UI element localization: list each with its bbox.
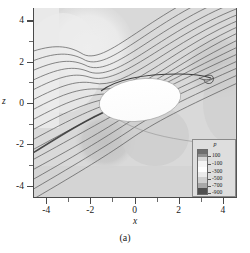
x-tick-minor-3 (201, 198, 202, 202)
colorbar-label-neg500: -500 (212, 176, 222, 182)
x-tick-minor-neg3 (68, 198, 69, 202)
y-tick-4 (27, 20, 33, 21)
x-tick-2 (179, 198, 180, 204)
y-tick-minor-neg3 (29, 165, 33, 166)
y-tick-0 (27, 103, 33, 104)
colorbar-label-100: 100 (212, 153, 220, 159)
colorbar-title: p (193, 141, 237, 147)
colorbar-tick-neg100 (208, 164, 211, 165)
colorbar-inner: 100 -100 -300 -500 -700 -900 (197, 149, 233, 195)
x-tick-minor-1 (157, 198, 158, 202)
y-axis-label: z (2, 96, 6, 106)
y-tick-neg4 (27, 186, 33, 187)
colorbar-gradient (197, 149, 208, 195)
y-tick-minor-1 (29, 82, 33, 83)
x-tick-4 (223, 198, 224, 204)
pressure-region-left-edge (33, 8, 59, 128)
figure-panel: 4 2 0 -2 -4 -4 -2 0 2 4 x z p 100 -100 -… (0, 0, 250, 253)
y-tick-minor-3 (29, 41, 33, 42)
x-tick-0 (135, 198, 136, 204)
x-ticklabel-4: 4 (211, 206, 235, 216)
x-ticklabel-neg4: -4 (34, 206, 58, 216)
x-ticklabel-2: 2 (167, 206, 191, 216)
colorbar-legend: p 100 -100 -300 -500 -700 -900 (192, 139, 236, 197)
x-ticklabel-neg2: -2 (78, 206, 102, 216)
y-tick-2 (27, 62, 33, 63)
colorbar-tick-100 (208, 156, 211, 157)
colorbar-label-neg900: -900 (212, 190, 222, 196)
colorbar-tick-neg300 (208, 172, 211, 173)
x-ticklabel-0: 0 (123, 206, 147, 216)
x-tick-neg2 (90, 198, 91, 204)
y-ticklabel-2: 2 (2, 58, 24, 68)
y-axis-line (33, 8, 34, 198)
colorbar-tick-neg500 (208, 179, 211, 180)
y-ticklabel-4: 4 (2, 16, 24, 26)
colorbar-label-neg300: -300 (212, 169, 222, 175)
colorbar-label-neg700: -700 (212, 183, 222, 189)
x-tick-minor-neg1 (112, 198, 113, 202)
y-ticklabel-neg4: -4 (2, 182, 24, 192)
colorbar-tick-neg900 (208, 193, 211, 194)
y-ticklabel-neg2: -2 (2, 140, 24, 150)
y-tick-neg2 (27, 144, 33, 145)
colorbar-tick-neg700 (208, 186, 211, 187)
figure-caption: (a) (0, 232, 250, 243)
x-tick-neg4 (46, 198, 47, 204)
colorbar-label-neg100: -100 (212, 161, 222, 167)
x-axis-label: x (0, 216, 250, 226)
y-tick-minor-neg1 (29, 124, 33, 125)
